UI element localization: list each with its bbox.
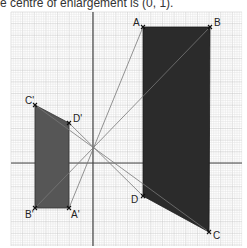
vertex-label: C xyxy=(213,230,220,241)
vertex-label: B xyxy=(214,17,221,28)
vertex-label: D xyxy=(131,194,138,205)
ray-d xyxy=(69,123,143,196)
vertex-label: C' xyxy=(25,95,34,106)
vertex-label: A' xyxy=(71,209,80,220)
object-shape-abcd xyxy=(143,27,210,232)
image-shape-abcd-prime xyxy=(35,105,69,208)
vertex-label: A xyxy=(133,17,140,28)
enlargement-diagram: ABCDA'B'C'D' xyxy=(0,0,247,248)
vertex-label: D' xyxy=(73,113,82,124)
vertex-label: B' xyxy=(25,209,34,220)
